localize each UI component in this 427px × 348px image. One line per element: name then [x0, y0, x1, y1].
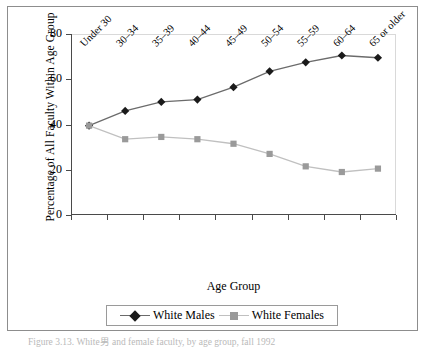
data-point	[339, 169, 345, 175]
legend-label-white-males: White Males	[153, 308, 215, 323]
y-tick-label: 80	[50, 26, 62, 41]
y-tick-label: 60	[50, 71, 62, 86]
x-tick	[215, 215, 216, 220]
data-point	[230, 141, 236, 147]
data-point	[121, 107, 129, 115]
series-line	[89, 126, 378, 172]
plot-area: 020406080 Under 3030–3435–3940–4445–4950…	[71, 34, 396, 215]
data-point	[86, 123, 92, 129]
data-point	[266, 67, 274, 75]
series-plot	[71, 34, 396, 215]
y-tick-label: 0	[56, 207, 62, 222]
x-tick	[360, 215, 361, 220]
y-tick-label: 20	[50, 162, 62, 177]
data-point	[158, 134, 164, 140]
legend-item-white-males[interactable]: White Males	[120, 308, 215, 323]
data-point	[303, 163, 309, 169]
legend-marker-square-icon	[219, 311, 249, 321]
chart-frame: Percentage of All Faculty Within Age Gro…	[7, 6, 418, 331]
data-point	[193, 96, 201, 104]
legend-label-white-females: White Females	[252, 308, 324, 323]
data-point	[338, 51, 346, 59]
figure-caption: Figure 3.13. White男 and female faculty, …	[28, 334, 408, 348]
x-tick	[252, 215, 253, 220]
legend-item-white-females[interactable]: White Females	[219, 308, 324, 323]
series-white-females	[86, 123, 381, 176]
data-point	[194, 136, 200, 142]
legend-marker-diamond-icon	[120, 311, 150, 321]
data-point	[374, 54, 382, 62]
chart-legend: White Males White Females	[106, 305, 338, 326]
data-point	[229, 83, 237, 91]
y-tick-label: 40	[50, 117, 62, 132]
x-tick	[179, 215, 180, 220]
data-point	[302, 58, 310, 66]
x-tick	[143, 215, 144, 220]
x-axis-title: Age Group	[71, 279, 396, 294]
x-tick	[396, 215, 397, 220]
x-tick	[324, 215, 325, 220]
x-tick	[288, 215, 289, 220]
data-point	[157, 98, 165, 106]
data-point	[267, 151, 273, 157]
x-tick	[107, 215, 108, 220]
x-tick	[71, 215, 72, 220]
data-point	[375, 166, 381, 172]
data-point	[122, 136, 128, 142]
series-white-males	[85, 51, 382, 129]
